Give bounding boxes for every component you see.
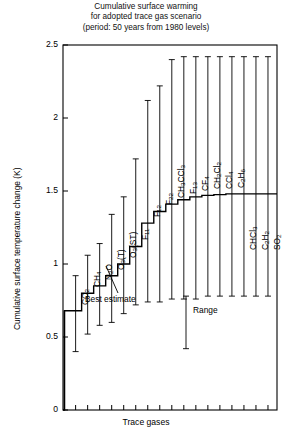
species-label-o3(t): O3(T) [116, 249, 126, 270]
species-label-ch4: CH4 [92, 272, 102, 288]
species-label-c2h6: C2H6 [236, 169, 246, 188]
y-tick-label: 0.5 [14, 331, 58, 341]
chart-figure: Cumulative surface warming for adopted t… [0, 0, 292, 432]
species-label-chcl3: CHCl3 [248, 226, 258, 249]
y-axis-title: Cumulative surface temperature change (K… [12, 168, 22, 330]
species-label-so2: SO2 [272, 234, 282, 250]
species-label-f22: F22 [164, 193, 174, 205]
species-label-ch2cl2: CH2Cl2 [212, 162, 222, 189]
x-axis-title: Trace gases [0, 417, 292, 427]
y-tick-label: 2 [14, 112, 58, 122]
species-label-n2o: N2O [104, 264, 114, 280]
species-label-ch3ccl3: CH3CCl3 [176, 165, 186, 198]
y-tick-label: 2.5 [14, 39, 58, 49]
species-label-cf4: CF4 [200, 176, 210, 191]
best-estimate-annotation: Best estimate [85, 294, 136, 304]
species-label-o3(st): O3(ST) [128, 232, 138, 258]
plot-area [0, 0, 292, 432]
species-label-f12: F12 [152, 205, 162, 217]
species-label-f13: F13 [188, 182, 198, 194]
axes-frame [63, 45, 277, 410]
species-label-c2h2: C2H2 [260, 231, 270, 250]
range-annotation: Range [193, 305, 218, 315]
species-label-f11: F11 [140, 229, 150, 241]
y-tick-label: 0 [14, 404, 58, 414]
species-label-ccl4: CCl4 [224, 171, 234, 188]
